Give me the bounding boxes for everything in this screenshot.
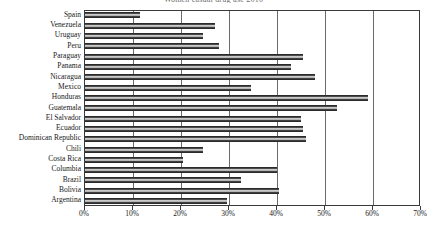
tickmark-10 [132, 206, 133, 210]
bar-brazil[interactable] [85, 177, 241, 183]
bar-mexico[interactable] [85, 85, 251, 91]
percent-tick-70: 70% [413, 209, 427, 219]
percent-tick-40: 40% [269, 209, 283, 219]
bar-costa-rica[interactable] [85, 157, 183, 163]
country-label-brazil: Brazil [0, 176, 81, 184]
bar-row [85, 187, 421, 197]
percent-tick-60: 60% [365, 209, 379, 219]
bar-row [85, 63, 421, 73]
bar-row [85, 53, 421, 63]
bar-row [85, 125, 421, 135]
percent-tick-20: 20% [173, 209, 187, 219]
country-label-costa-rica: Costa Rica [0, 155, 81, 163]
percent-tick-0: 0% [79, 209, 89, 219]
percent-tick-30: 30% [221, 209, 235, 219]
bar-spain[interactable] [85, 12, 140, 18]
bar-row [85, 146, 421, 156]
bar-row [85, 135, 421, 145]
bar-nicaragua[interactable] [85, 74, 315, 80]
bar-row [85, 176, 421, 186]
tickmark-50 [324, 206, 325, 210]
bar-peru[interactable] [85, 43, 219, 49]
bar-venezuela[interactable] [85, 23, 215, 29]
country-label-mexico: Mexico [0, 83, 81, 91]
bar-row [85, 84, 421, 94]
tickmark-0 [84, 206, 85, 210]
chart-title: Women casual drug use 2010 [0, 0, 427, 3]
bar-row [85, 115, 421, 125]
plot-area [84, 10, 420, 206]
country-label-dominican-republic: Dominican Republic [0, 134, 81, 142]
bar-row [85, 94, 421, 104]
bar-row [85, 42, 421, 52]
bar-rows [85, 11, 419, 205]
country-label-spain: Spain [0, 11, 81, 19]
bar-row [85, 32, 421, 42]
bar-argentina[interactable] [85, 198, 227, 204]
percent-tick-50: 50% [317, 209, 331, 219]
country-label-honduras: Honduras [0, 93, 81, 101]
bar-bolivia[interactable] [85, 188, 279, 194]
bar-row [85, 11, 421, 21]
bar-honduras[interactable] [85, 95, 368, 101]
bar-row [85, 104, 421, 114]
country-label-guatemala: Guatemala [0, 104, 81, 112]
percent-axis-labels: 0%10%20%30%40%50%60%70% [0, 209, 427, 223]
bar-chili[interactable] [85, 147, 203, 153]
tickmark-60 [372, 206, 373, 210]
tickmark-70 [420, 206, 421, 210]
bar-panama[interactable] [85, 64, 291, 70]
bar-row [85, 156, 421, 166]
bar-ecuador[interactable] [85, 126, 303, 132]
tickmark-20 [180, 206, 181, 210]
bar-row [85, 73, 421, 83]
country-label-venezuela: Venezuela [0, 21, 81, 29]
country-label-columbia: Columbia [0, 165, 81, 173]
country-label-chili: Chili [0, 145, 81, 153]
country-label-paraguay: Paraguay [0, 52, 81, 60]
bar-paraguay[interactable] [85, 54, 303, 60]
bar-row [85, 22, 421, 32]
country-label-ecuador: Ecuador [0, 124, 81, 132]
country-label-panama: Panama [0, 62, 81, 70]
bar-el-salvador[interactable] [85, 116, 301, 122]
bar-row [85, 166, 421, 176]
bar-uruguay[interactable] [85, 33, 203, 39]
country-label-bolivia: Bolivia [0, 186, 81, 194]
bar-dominican-republic[interactable] [85, 136, 306, 142]
bar-chart: Women casual drug use 2010 SpainVenezuel… [0, 0, 427, 234]
country-label-uruguay: Uruguay [0, 31, 81, 39]
country-axis-labels: SpainVenezuelaUruguayPeruParaguayPanamaN… [0, 10, 81, 206]
country-label-nicaragua: Nicaragua [0, 73, 81, 81]
tickmark-30 [228, 206, 229, 210]
tickmark-40 [276, 206, 277, 210]
bar-columbia[interactable] [85, 167, 277, 173]
percent-tick-10: 10% [125, 209, 139, 219]
bar-guatemala[interactable] [85, 105, 337, 111]
country-label-peru: Peru [0, 42, 81, 50]
country-label-argentina: Argentina [0, 196, 81, 204]
country-label-el-salvador: El Salvador [0, 114, 81, 122]
bar-row [85, 197, 421, 207]
